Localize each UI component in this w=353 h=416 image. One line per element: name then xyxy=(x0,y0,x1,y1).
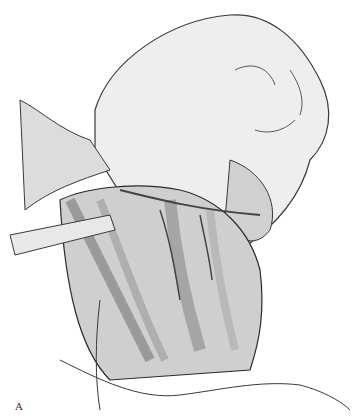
neck-dissection-drawing xyxy=(0,0,353,416)
figure-label: A xyxy=(15,400,23,412)
anatomical-illustration xyxy=(0,0,353,416)
